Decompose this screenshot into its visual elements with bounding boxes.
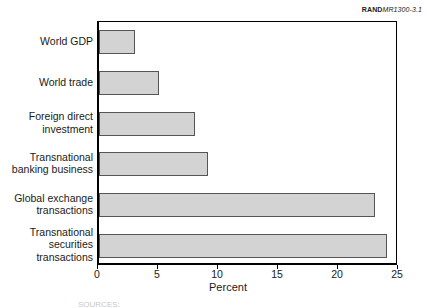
y-axis-label-line: transactions [0, 204, 93, 217]
x-axis-title: Percent [0, 281, 428, 293]
y-axis-label-line: securities [0, 238, 93, 251]
source-note: SOURCES: [78, 300, 120, 308]
x-axis-title-text: Percent [209, 281, 247, 293]
x-tick-mark-5 [157, 265, 158, 269]
document-id-label: MR1300-3.1 [382, 6, 422, 13]
rand-brand-label: RAND [362, 6, 383, 13]
bar-5 [99, 193, 375, 217]
bar-1 [99, 30, 135, 54]
x-tick-label-0: 0 [94, 268, 100, 280]
y-axis-label-line: Transnational [0, 151, 93, 164]
y-axis-label-4: Transnationalbanking business [0, 151, 93, 176]
x-tick-label-5: 5 [154, 268, 160, 280]
bar-3 [99, 112, 195, 136]
y-axis-label-3: Foreign directinvestment [0, 110, 93, 135]
x-axis-ticks: 0510152025 [0, 265, 428, 281]
x-tick-mark-25 [397, 265, 398, 269]
y-axis-label-6: Transnationalsecuritiestransactions [0, 226, 93, 264]
x-tick-label-20: 20 [331, 268, 343, 280]
bars-layer [99, 22, 396, 263]
y-axis-label-line: Foreign direct [0, 110, 93, 123]
y-axis-label-line: banking business [0, 163, 93, 176]
x-tick-mark-10 [217, 265, 218, 269]
y-axis-label-line: investment [0, 123, 93, 136]
y-axis-label-5: Global exchangetransactions [0, 192, 93, 217]
x-tick-mark-15 [277, 265, 278, 269]
figure-credit: RANDMR1300-3.1 [362, 6, 422, 13]
x-tick-label-15: 15 [271, 268, 283, 280]
y-axis-label-2: World trade [0, 76, 93, 89]
y-axis-label-1: World GDP [0, 35, 93, 48]
y-axis-label-line: World trade [0, 76, 93, 89]
y-axis-label-line: Transnational [0, 226, 93, 239]
y-axis-labels: World GDPWorld tradeForeign directinvest… [0, 21, 93, 265]
bar-2 [99, 71, 159, 95]
x-tick-mark-20 [337, 265, 338, 269]
x-tick-mark-0 [97, 265, 98, 269]
x-tick-label-25: 25 [391, 268, 403, 280]
x-tick-label-10: 10 [211, 268, 223, 280]
plot-area [97, 21, 397, 265]
y-axis-label-line: World GDP [0, 35, 93, 48]
y-axis-label-line: Global exchange [0, 192, 93, 205]
bar-4 [99, 152, 208, 176]
y-axis-label-line: transactions [0, 251, 93, 264]
bar-6 [99, 234, 387, 258]
